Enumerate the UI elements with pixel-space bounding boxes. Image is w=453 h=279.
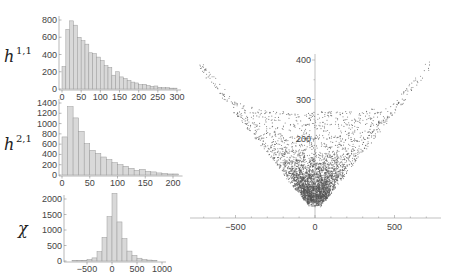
x-tick-label: 200	[165, 178, 180, 188]
histogram-bar	[146, 86, 150, 89]
histogram-bar	[81, 41, 85, 89]
y-tick-label: 2000	[42, 194, 62, 204]
x-tick-label: 100	[110, 178, 125, 188]
histogram-bar	[82, 260, 87, 261]
y-tick-label: 200	[42, 160, 57, 170]
histogram-bar	[108, 67, 112, 89]
histogram-bar	[70, 21, 74, 89]
histogram-bar	[90, 150, 96, 175]
y-tick-label: 800	[42, 129, 57, 139]
x-tick-label: 0	[312, 222, 317, 232]
x-tick-label: 200	[131, 92, 146, 102]
histogram-bar	[127, 251, 132, 261]
histogram-bar	[134, 170, 140, 175]
histogram-h21: 0200400600800100012001400050100150200h2,…	[4, 98, 183, 188]
histogram-bar	[73, 118, 79, 175]
histogram-bar	[93, 54, 97, 89]
histogram-bar	[106, 160, 112, 175]
histogram-bar	[62, 137, 68, 175]
histogram-bar	[154, 86, 158, 89]
y-axis-label: h	[4, 47, 14, 66]
histogram-bar	[145, 171, 151, 175]
y-tick-label: 1000	[42, 225, 62, 235]
histogram-bar	[142, 259, 147, 261]
y-tick-label: 1500	[42, 210, 62, 220]
histogram-bar	[147, 260, 152, 261]
x-tick-label: 300	[169, 92, 184, 102]
y-tick-label: 300	[296, 95, 311, 105]
histogram-bar	[68, 107, 74, 175]
histogram-bar	[62, 67, 66, 89]
y-tick-label: 200	[42, 67, 57, 77]
y-tick-label: 0	[57, 256, 62, 266]
histogram-bar	[107, 217, 112, 261]
y-tick-label: 1400	[37, 98, 57, 108]
histogram-bar	[118, 165, 124, 175]
histogram-bar	[173, 88, 177, 89]
histogram-bar	[123, 166, 129, 175]
histogram-bar	[122, 239, 127, 261]
x-tick-label: 100	[93, 92, 108, 102]
histogram-bar	[112, 193, 117, 261]
histogram-bar	[140, 169, 146, 175]
x-tick-label: 50	[85, 178, 95, 188]
histogram-bar	[167, 174, 173, 175]
y-tick-label: 600	[42, 139, 57, 149]
y-tick-label: 0	[52, 84, 57, 94]
y-tick-label: 1000	[37, 119, 57, 129]
x-tick-label: −500	[225, 222, 245, 232]
y-tick-label: 600	[42, 32, 57, 42]
histogram-bar	[156, 173, 162, 175]
histogram-bar	[120, 77, 124, 89]
histogram-bar	[137, 258, 142, 261]
y-tick-label: 0	[52, 170, 57, 180]
x-tick-label: 150	[138, 178, 153, 188]
x-tick-label: 0	[59, 178, 64, 188]
histogram-bar	[87, 259, 92, 261]
x-tick-label: 0	[109, 264, 114, 274]
histogram-bar	[74, 25, 78, 89]
scatter-plot: −5000500200300400	[190, 54, 441, 232]
y-tick-label: 400	[296, 55, 311, 65]
histogram-bar	[169, 88, 173, 89]
histogram-bar	[150, 86, 154, 89]
x-tick-label: 0	[59, 92, 64, 102]
histogram-bar	[97, 252, 102, 261]
histogram-bar	[102, 237, 107, 261]
histogram-bar	[92, 258, 97, 261]
histogram-bar	[104, 66, 108, 89]
histogram-bar	[66, 29, 70, 89]
x-tick-label: 500	[129, 264, 144, 274]
histogram-bar	[116, 72, 120, 89]
x-tick-label: 150	[112, 92, 127, 102]
histogram-bar	[112, 75, 116, 89]
histogram-bar	[127, 80, 131, 89]
histogram-bar	[84, 144, 90, 175]
x-tick-label: 500	[387, 222, 402, 232]
histogram-h11: 0200400600800050100150200250300h1,1	[4, 15, 185, 102]
histogram-bar	[95, 153, 101, 175]
histogram-bar	[101, 157, 107, 175]
histogram-bar	[97, 57, 101, 89]
y-axis-label-superscript: 1,1	[16, 45, 32, 56]
histogram-chi: 0500100015002000−50005001000χ	[17, 193, 172, 274]
x-tick-label: −500	[77, 264, 97, 274]
histogram-bar	[143, 84, 147, 89]
y-tick-label: 500	[47, 241, 62, 251]
histogram-bar	[77, 37, 81, 89]
y-tick-label: 1200	[37, 108, 57, 118]
y-tick-label: 400	[42, 149, 57, 159]
x-tick-label: 50	[76, 92, 86, 102]
y-axis-label-superscript: 2,1	[16, 133, 32, 144]
histogram-bar	[135, 83, 139, 89]
histogram-bar	[129, 168, 135, 175]
histogram-bar	[100, 61, 104, 89]
histogram-bar	[79, 131, 85, 175]
y-tick-label: 800	[42, 15, 57, 25]
histogram-bar	[139, 85, 143, 89]
figure-canvas: 0200400600800050100150200250300h1,102004…	[0, 0, 453, 279]
x-tick-label: 1000	[152, 264, 172, 274]
histogram-bar	[112, 163, 118, 175]
histogram-bar	[162, 173, 168, 175]
x-tick-label: 250	[150, 92, 165, 102]
